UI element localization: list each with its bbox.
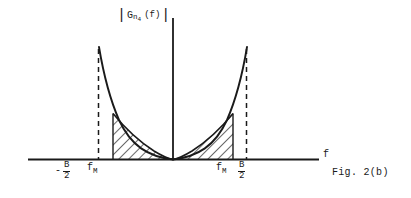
minus-sign: - xyxy=(55,166,61,176)
y-axis-label-argument: (f) xyxy=(144,11,160,20)
y-axis-label-subsubscript: 4 xyxy=(138,16,142,23)
tick-label-pos-b-over-2: B2 xyxy=(238,161,245,182)
tick-label-neg-b-over-2: -B2 xyxy=(55,161,70,182)
fraction-b-over-2: B2 xyxy=(63,161,70,182)
y-axis-label-subscript: n4 xyxy=(133,14,141,22)
fm-subscript: M xyxy=(93,167,98,175)
fraction-numerator: B xyxy=(63,161,70,170)
figure-caption: Fig. 2(b) xyxy=(332,168,389,178)
x-axis-label: f xyxy=(323,150,329,160)
tick-label-pos-fm: fM xyxy=(216,163,227,173)
y-axis-label-bar-right: | xyxy=(161,10,170,21)
fraction-denominator: 2 xyxy=(63,172,70,181)
left-shaded-region xyxy=(113,114,173,160)
y-axis-label-bar-left: | xyxy=(117,10,126,21)
fm-subscript: M xyxy=(222,167,227,175)
fraction-denominator: 2 xyxy=(238,172,245,181)
fraction-numerator: B xyxy=(238,161,245,170)
fraction-b-over-2: B2 xyxy=(238,161,245,182)
y-axis-label: |Gn4(f)| xyxy=(116,11,171,22)
right-shaded-region xyxy=(173,114,233,160)
figure-container: |Gn4(f)| -B2 fM fM B2 f Fig. 2(b) xyxy=(0,0,411,198)
tick-label-neg-fm: fM xyxy=(87,163,98,173)
